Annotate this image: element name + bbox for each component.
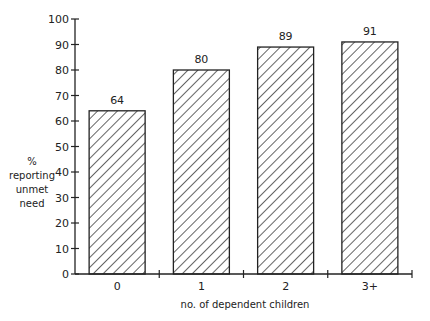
y-label-line: need [8,197,56,211]
y-tick-label: 50 [55,141,69,154]
y-tick-label: 100 [48,13,69,26]
y-tick-label: 20 [55,217,69,230]
bar-value-label: 80 [194,53,208,66]
bar-value-label: 91 [363,25,377,38]
y-tick-label: 70 [55,90,69,103]
y-tick-label: 80 [55,64,69,77]
bar-chart-plot: 64808991 01020304050607080901000123+ [0,0,430,321]
x-tick-label: 1 [198,280,205,293]
y-label-line: reporting [8,169,56,183]
x-tick-label: 3+ [362,280,378,293]
y-tick-label: 60 [55,115,69,128]
x-tick-label: 2 [282,280,289,293]
bar [173,70,229,274]
bar-value-label: 64 [110,94,124,107]
bar [89,111,145,274]
y-tick-label: 10 [55,243,69,256]
y-axis-label: % reporting unmet need [8,155,56,211]
y-tick-label: 0 [62,268,69,281]
bar [342,42,398,274]
x-axis-label: no. of dependent children [160,298,330,312]
bar-value-label: 89 [279,30,293,43]
y-tick-label: 30 [55,192,69,205]
y-tick-label: 90 [55,39,69,52]
bar [258,47,314,274]
y-label-line: % [8,155,56,169]
chart: 64808991 01020304050607080901000123+ % r… [0,0,430,321]
x-tick-label: 0 [114,280,121,293]
y-tick-label: 40 [55,166,69,179]
y-label-line: unmet [8,183,56,197]
